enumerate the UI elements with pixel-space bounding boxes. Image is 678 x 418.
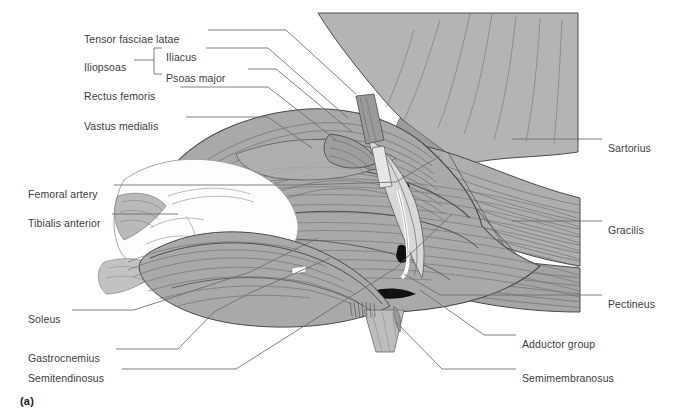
label-psoas-major: Psoas major [166,72,225,84]
label-sartorius: Sartorius [608,142,651,154]
label-gastrocnemius: Gastrocnemius [28,352,100,364]
leader-semimembranosus [396,322,516,369]
label-iliopsoas: Iliopsoas [84,61,126,73]
label-tibialis-anterior: Tibialis anterior [28,217,101,229]
label-iliacus: Iliacus [166,51,196,63]
label-tensor-fasciae-latae: Tensor fasciae latae [84,33,179,45]
label-pectineus: Pectineus [608,298,655,310]
label-rectus-femoris: Rectus femoris [84,90,155,102]
label-semitendinosus: Semitendinosus [28,372,104,384]
label-adductor-group: Adductor group [522,338,595,350]
label-vastus-medialis: Vastus medialis [84,120,158,132]
anatomical-illustration: Tensor fasciae lataeIliopsoasIliacusPsoa… [0,0,678,418]
label-soleus: Soleus [28,313,61,325]
label-femoral-artery: Femoral artery [28,188,98,200]
figure-caption: (a) [20,395,34,407]
leader-iliacus [206,48,348,118]
leader-tensor-fasciae-latae [208,30,356,94]
label-gracilis: Gracilis [608,224,644,236]
label-semimembranosus: Semimembranosus [522,372,614,384]
